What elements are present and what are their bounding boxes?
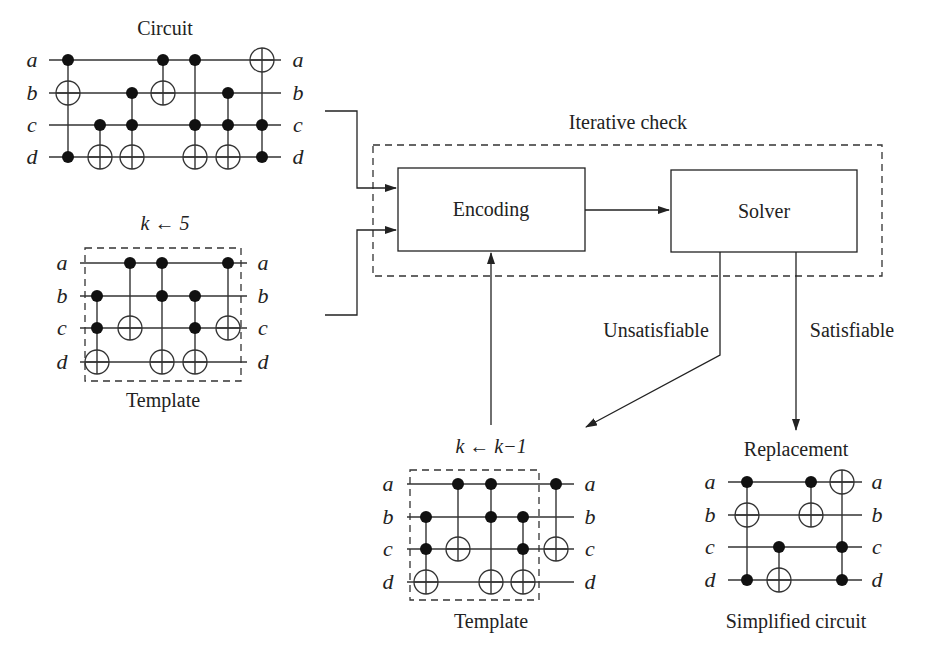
control-dot-icon bbox=[550, 478, 562, 490]
wire-label-right-b: b bbox=[872, 502, 883, 527]
wire-label-right-d: d bbox=[258, 349, 270, 374]
control-dot-icon bbox=[452, 478, 464, 490]
control-dot-icon bbox=[91, 290, 103, 302]
toffoli-gate bbox=[151, 54, 175, 105]
control-dot-icon bbox=[157, 54, 169, 66]
wire-label-left-b: b bbox=[705, 502, 716, 527]
control-dot-icon bbox=[256, 119, 268, 131]
toffoli-gate bbox=[414, 511, 438, 594]
toffoli-gate bbox=[183, 290, 207, 374]
toffoli-gate bbox=[446, 478, 470, 561]
wire-label-left-c: c bbox=[383, 536, 393, 561]
control-dot-icon bbox=[94, 119, 106, 131]
control-dot-icon bbox=[189, 54, 201, 66]
template-k-minus-1: aabbccdd bbox=[383, 470, 597, 600]
encoding-label: Encoding bbox=[453, 198, 530, 221]
wire-label-right-d: d bbox=[872, 567, 884, 592]
template-k5-label: k ← 5 bbox=[141, 212, 190, 234]
toffoli-gate bbox=[150, 257, 174, 374]
control-dot-icon bbox=[517, 511, 529, 523]
wire-label-left-b: b bbox=[57, 283, 68, 308]
wire-label-right-c: c bbox=[293, 112, 303, 137]
toffoli-gate bbox=[216, 257, 240, 340]
control-dot-icon bbox=[126, 87, 138, 99]
control-dot-icon bbox=[156, 290, 168, 302]
control-dot-icon bbox=[485, 478, 497, 490]
wire-label-left-a: a bbox=[705, 469, 716, 494]
unsatisfiable-label: Unsatisfiable bbox=[603, 319, 709, 341]
control-dot-icon bbox=[222, 87, 234, 99]
toffoli-gate bbox=[118, 257, 142, 340]
original-circuit: aabbccdd bbox=[27, 47, 305, 169]
k-decrement-label: k ← k−1 bbox=[455, 435, 526, 457]
wire-label-right-b: b bbox=[585, 504, 596, 529]
control-dot-icon bbox=[741, 476, 753, 488]
toffoli-gate bbox=[767, 541, 791, 592]
satisfiable-label: Satisfiable bbox=[810, 319, 895, 341]
toffoli-gate bbox=[479, 478, 503, 594]
control-dot-icon bbox=[189, 119, 201, 131]
toffoli-gate bbox=[88, 119, 112, 169]
wire-label-right-a: a bbox=[293, 47, 304, 72]
wire-label-left-b: b bbox=[383, 504, 394, 529]
simplified-caption: Simplified circuit bbox=[726, 610, 867, 633]
toffoli-gate bbox=[183, 54, 207, 169]
wire-label-right-c: c bbox=[872, 534, 882, 559]
solver-label: Solver bbox=[738, 200, 791, 222]
circuit-title: Circuit bbox=[137, 17, 193, 39]
wire-label-right-a: a bbox=[872, 469, 883, 494]
circuit-to-encoding-arrow bbox=[325, 111, 396, 188]
wire-label-left-c: c bbox=[27, 112, 37, 137]
control-dot-icon bbox=[222, 119, 234, 131]
control-dot-icon bbox=[222, 257, 234, 269]
template-to-encoding-arrow bbox=[325, 230, 396, 315]
control-dot-icon bbox=[485, 511, 497, 523]
wire-label-right-d: d bbox=[293, 144, 305, 169]
toffoli-gate bbox=[830, 470, 854, 586]
diagram-canvas: Circuit k ← 5 Template aabbccdd aabbccdd… bbox=[0, 0, 925, 662]
iterative-check-label: Iterative check bbox=[569, 111, 687, 133]
control-dot-icon bbox=[741, 574, 753, 586]
wire-label-left-d: d bbox=[383, 569, 395, 594]
toffoli-gate bbox=[799, 476, 823, 527]
template-region bbox=[410, 470, 539, 600]
control-dot-icon bbox=[62, 151, 74, 163]
control-dot-icon bbox=[836, 574, 848, 586]
wire-label-left-c: c bbox=[705, 534, 715, 559]
wire-label-left-d: d bbox=[57, 349, 69, 374]
wire-label-left-a: a bbox=[383, 471, 394, 496]
template-k5: aabbccdd bbox=[57, 248, 270, 381]
toffoli-gate bbox=[735, 476, 759, 586]
control-dot-icon bbox=[62, 54, 74, 66]
toffoli-gate bbox=[85, 290, 109, 374]
toffoli-gate bbox=[511, 511, 535, 594]
replacement-label: Replacement bbox=[744, 438, 849, 461]
control-dot-icon bbox=[805, 476, 817, 488]
control-dot-icon bbox=[517, 543, 529, 555]
wire-label-left-a: a bbox=[27, 47, 38, 72]
toffoli-gate bbox=[216, 87, 240, 169]
wire-label-left-d: d bbox=[705, 567, 717, 592]
toffoli-gate bbox=[250, 48, 274, 163]
wire-label-right-b: b bbox=[293, 80, 304, 105]
wire-label-right-b: b bbox=[258, 283, 269, 308]
wire-label-right-a: a bbox=[585, 471, 596, 496]
wire-label-right-c: c bbox=[585, 536, 595, 561]
wire-label-left-a: a bbox=[57, 250, 68, 275]
control-dot-icon bbox=[189, 322, 201, 334]
control-dot-icon bbox=[126, 119, 138, 131]
wire-label-left-b: b bbox=[27, 80, 38, 105]
control-dot-icon bbox=[156, 257, 168, 269]
simplified-circuit: aabbccdd bbox=[705, 469, 884, 592]
toffoli-gate bbox=[56, 54, 80, 163]
toffoli-gate bbox=[120, 87, 144, 169]
control-dot-icon bbox=[124, 257, 136, 269]
control-dot-icon bbox=[420, 543, 432, 555]
wire-label-left-c: c bbox=[57, 315, 67, 340]
wire-label-right-a: a bbox=[258, 250, 269, 275]
control-dot-icon bbox=[189, 290, 201, 302]
control-dot-icon bbox=[256, 151, 268, 163]
wire-label-right-c: c bbox=[258, 315, 268, 340]
template2-caption: Template bbox=[454, 610, 528, 633]
control-dot-icon bbox=[420, 511, 432, 523]
